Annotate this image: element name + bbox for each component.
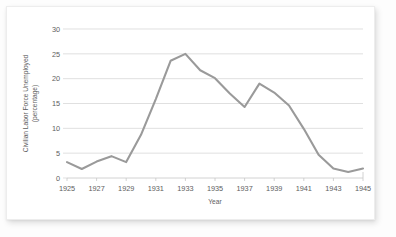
x-tick-label-1933: 1933 [177, 184, 193, 193]
x-tick-label-1925: 1925 [59, 184, 75, 193]
data-series-line [67, 54, 363, 172]
y-tick-label-15: 15 [52, 99, 60, 108]
x-tick-label-1927: 1927 [88, 184, 104, 193]
y-tick-label-25: 25 [52, 50, 60, 59]
x-tick-label-1937: 1937 [236, 184, 252, 193]
x-tick-label-1941: 1941 [296, 184, 312, 193]
x-tick-label-1931: 1931 [148, 184, 164, 193]
x-axis-title: Year [208, 198, 222, 205]
y-axis-tick-labels: 051015202530 [52, 25, 60, 183]
chart-card: 051015202530 192519271929193119331935193… [6, 6, 375, 220]
gridlines [63, 29, 363, 178]
y-axis-title-line-1: Civilian Labor Force Unemployed [22, 54, 30, 152]
x-tick-label-1943: 1943 [325, 184, 341, 193]
y-tick-label-5: 5 [56, 149, 60, 158]
y-axis-title-line-2: (percentage) [31, 85, 39, 122]
y-tick-label-0: 0 [56, 174, 60, 183]
y-tick-label-20: 20 [52, 74, 60, 83]
x-tick-label-1939: 1939 [266, 184, 282, 193]
x-tick-label-1929: 1929 [118, 184, 134, 193]
page-root: 051015202530 192519271929193119331935193… [0, 0, 396, 237]
y-tick-label-30: 30 [52, 25, 60, 34]
x-tick-label-1945: 1945 [355, 184, 371, 193]
x-tick-label-1935: 1935 [207, 184, 223, 193]
x-axis-tick-marks [67, 178, 363, 181]
y-tick-label-10: 10 [52, 124, 60, 133]
x-axis-tick-labels: 1925192719291931193319351937193919411943… [59, 184, 371, 193]
unemployment-line-chart: 051015202530 192519271929193119331935193… [7, 7, 376, 221]
